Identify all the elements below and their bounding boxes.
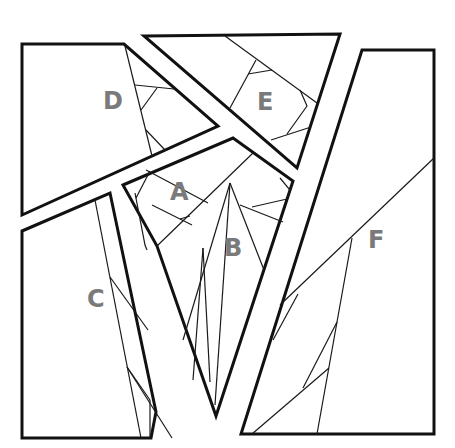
label-c: C	[87, 285, 105, 313]
label-b: B	[224, 234, 242, 262]
label-e: E	[257, 88, 273, 116]
label-a: A	[170, 178, 189, 206]
label-d: D	[103, 87, 123, 115]
puzzle-diagram: D E A B C	[0, 0, 455, 448]
label-f: F	[368, 226, 384, 254]
